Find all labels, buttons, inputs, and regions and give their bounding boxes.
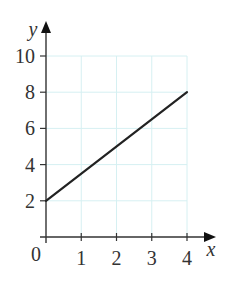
origin-label: 0 xyxy=(31,243,41,265)
y-axis-arrow-icon xyxy=(41,21,51,33)
x-tick-label: 4 xyxy=(182,247,192,269)
x-axis-label: x xyxy=(206,238,216,260)
line-chart: 12342468100xy xyxy=(0,0,227,282)
axes xyxy=(40,21,216,243)
y-tick-label: 2 xyxy=(25,190,35,212)
x-tick-label: 2 xyxy=(112,247,122,269)
x-tick-label: 1 xyxy=(76,247,86,269)
x-tick-label: 3 xyxy=(147,247,157,269)
y-tick-label: 10 xyxy=(15,45,35,67)
y-tick-label: 8 xyxy=(25,81,35,103)
y-tick-label: 4 xyxy=(25,154,35,176)
y-tick-label: 6 xyxy=(25,117,35,139)
y-axis-label: y xyxy=(27,18,38,41)
